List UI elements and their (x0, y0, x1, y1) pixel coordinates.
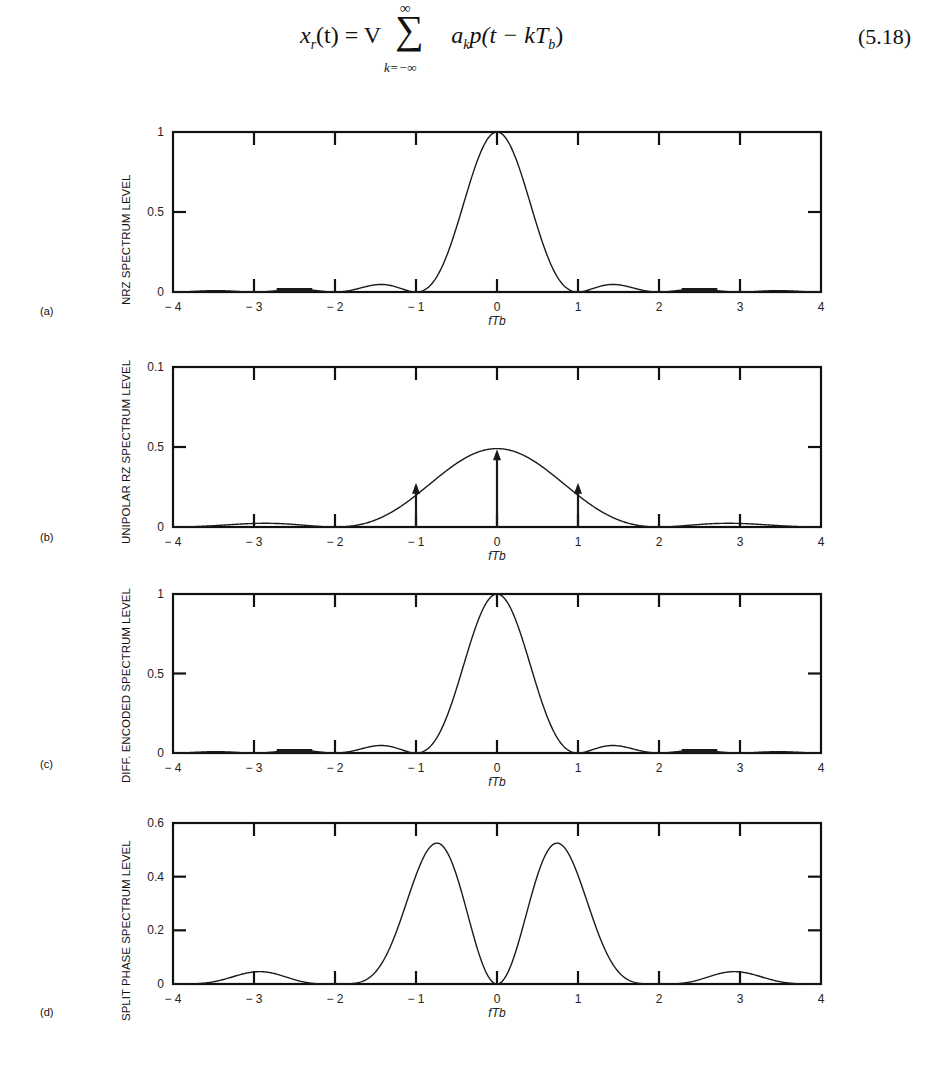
x-tick-label: − 3 (245, 992, 262, 1006)
x-tick-label: − 4 (164, 300, 181, 314)
plot-frame-3 (173, 823, 821, 984)
x-tick-label: − 1 (407, 300, 424, 314)
x-tick-label: − 2 (326, 761, 343, 775)
y-tick-label: 0.5 (147, 440, 164, 454)
y-tick-label: 0.5 (147, 667, 164, 681)
x-tick-label: 0 (494, 535, 501, 549)
x-tick-label: − 1 (407, 535, 424, 549)
x-tick-label: − 4 (164, 761, 181, 775)
x-tick-label: 0 (494, 992, 501, 1006)
x-tick-label: 3 (737, 535, 744, 549)
x-tick-label: 0 (494, 300, 501, 314)
y-tick-label: 1 (157, 125, 164, 139)
x-tick-label: − 1 (407, 992, 424, 1006)
y-tick-label: 1 (157, 587, 164, 601)
x-tick-label: 1 (575, 300, 582, 314)
x-axis-title: fTb (488, 314, 506, 328)
x-tick-label: 2 (656, 300, 663, 314)
x-tick-label: − 4 (164, 992, 181, 1006)
x-tick-label: 4 (818, 535, 825, 549)
x-tick-label: − 3 (245, 761, 262, 775)
y-tick-label: 0.2 (147, 923, 164, 937)
plot-frame-0 (173, 132, 821, 292)
y-tick-label: 0 (157, 746, 164, 760)
x-tick-label: − 2 (326, 535, 343, 549)
y-tick-label: 0.1 (147, 360, 164, 374)
y-tick-label: 0.5 (147, 205, 164, 219)
spectrum-curve (173, 594, 821, 753)
x-axis-title: fTb (488, 1006, 506, 1020)
x-tick-label: − 3 (245, 535, 262, 549)
spectrum-curve (173, 843, 821, 984)
y-tick-label: 0.6 (147, 816, 164, 830)
x-tick-label: 1 (575, 535, 582, 549)
x-tick-label: − 1 (407, 761, 424, 775)
spectrum-curve (173, 132, 821, 292)
x-tick-label: 3 (737, 992, 744, 1006)
y-tick-label: 0 (157, 977, 164, 991)
x-tick-label: 4 (818, 992, 825, 1006)
x-axis-title: fTb (488, 775, 506, 789)
x-tick-label: 2 (656, 761, 663, 775)
x-tick-label: 2 (656, 992, 663, 1006)
x-tick-label: 4 (818, 300, 825, 314)
x-tick-label: − 4 (164, 535, 181, 549)
y-tick-label: 0.4 (147, 870, 164, 884)
y-tick-label: 0 (157, 285, 164, 299)
x-tick-label: − 2 (326, 300, 343, 314)
x-tick-label: 0 (494, 761, 501, 775)
x-axis-title: fTb (488, 549, 506, 563)
y-tick-label: 0 (157, 520, 164, 534)
x-tick-label: 1 (575, 761, 582, 775)
x-tick-label: − 2 (326, 992, 343, 1006)
arrow-head-icon (493, 449, 501, 460)
spectrum-charts: − 4− 3− 2− 101234fTb00.51− 4− 3− 2− 1012… (0, 0, 947, 1067)
arrow-head-icon (412, 483, 420, 494)
x-tick-label: 2 (656, 535, 663, 549)
x-tick-label: − 3 (245, 300, 262, 314)
x-tick-label: 1 (575, 992, 582, 1006)
plot-frame-2 (173, 594, 821, 753)
arrow-head-icon (574, 483, 582, 494)
x-tick-label: 3 (737, 761, 744, 775)
x-tick-label: 3 (737, 300, 744, 314)
x-tick-label: 4 (818, 761, 825, 775)
